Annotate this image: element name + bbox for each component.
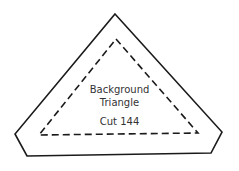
template-title-line2: Triangle [0, 98, 239, 108]
cut-count-label: Cut 144 [0, 117, 239, 127]
quilt-template-diagram: Background Triangle Cut 144 [0, 0, 239, 171]
template-title-line1: Background [0, 85, 239, 95]
